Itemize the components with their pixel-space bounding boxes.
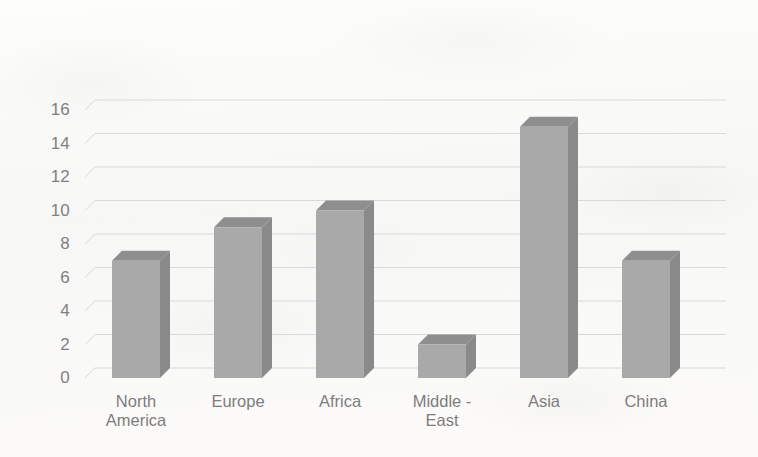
bar-front-face: [418, 345, 466, 379]
bar-column: [622, 251, 680, 378]
gridline: [85, 134, 726, 144]
y-axis-tick-label: 10: [51, 202, 70, 219]
y-axis-tick-label: 2: [60, 336, 70, 353]
bar-top-face: [520, 117, 578, 127]
bar-side-face: [160, 251, 170, 378]
bar-column: [520, 117, 578, 378]
bar-side-face: [262, 217, 272, 378]
bar-top-face: [112, 251, 170, 261]
y-axis-tick-label: 6: [60, 269, 70, 286]
bar-front-face: [112, 261, 160, 378]
bar-top-face: [418, 335, 476, 345]
gridline: [85, 100, 726, 110]
y-axis-tick-label: 16: [51, 101, 70, 118]
bar-side-face: [364, 201, 374, 379]
y-axis-tick-label: 14: [51, 135, 70, 152]
y-axis-tick-label: 8: [60, 235, 70, 252]
bar-front-face: [622, 261, 670, 378]
gridline: [85, 201, 726, 211]
bar-column: [316, 201, 374, 379]
bar-top-face: [214, 217, 272, 227]
bar-top-face: [622, 251, 680, 261]
bar-column: [214, 217, 272, 378]
bar-top-face: [316, 201, 374, 211]
gridline: [85, 167, 726, 177]
bar-side-face: [670, 251, 680, 378]
y-axis-tick-label: 4: [60, 302, 70, 319]
bar-front-face: [214, 227, 262, 378]
bar-group: [112, 117, 680, 378]
y-axis-tick-label: 0: [60, 369, 70, 386]
bar-column: [112, 251, 170, 378]
x-axis-category-label: China: [586, 392, 706, 411]
bar-front-face: [316, 211, 364, 379]
bar-column: [418, 335, 476, 379]
chart-screenshot: 0246810121416 North AmericaEuropeAfricaM…: [0, 0, 758, 457]
bar-side-face: [568, 117, 578, 378]
bar-chart-plot: [0, 0, 758, 457]
bar-front-face: [520, 127, 568, 378]
gridline: [85, 234, 726, 244]
y-axis-tick-label: 12: [51, 168, 70, 185]
